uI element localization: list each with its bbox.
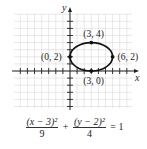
svg-text:y: y bbox=[61, 2, 67, 13]
svg-text:(0, 2): (0, 2) bbox=[41, 52, 62, 63]
svg-text:x: x bbox=[134, 72, 140, 83]
svg-text:(3, 4): (3, 4) bbox=[83, 29, 104, 40]
svg-text:(6, 2): (6, 2) bbox=[118, 52, 139, 63]
chart: xy (3, 4)(0, 2)(6, 2)(3, 0) bbox=[0, 0, 147, 116]
svg-text:(3, 0): (3, 0) bbox=[83, 76, 104, 87]
equation: (x − 3)²9 + (y − 2)²4 = 1 bbox=[0, 116, 147, 139]
